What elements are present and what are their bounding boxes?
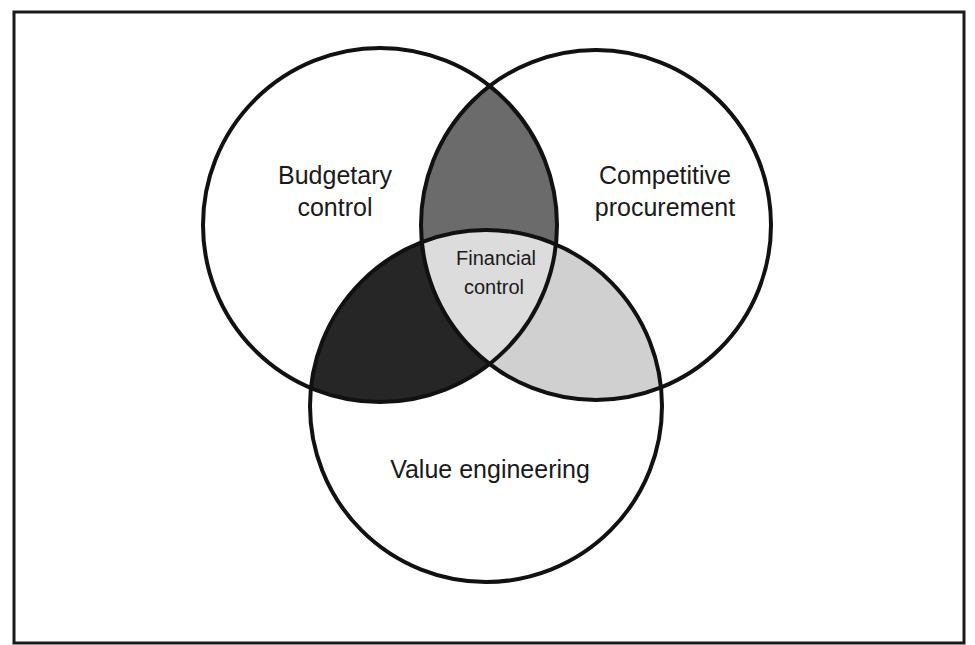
label-value-engineering: Value engineering <box>390 455 590 483</box>
label-budgetary-line1: Budgetary <box>278 161 392 189</box>
label-financial-line2: control <box>464 276 524 298</box>
venn-diagram: Budgetary control Competitive procuremen… <box>0 0 975 645</box>
label-competitive-line1: Competitive <box>599 161 731 189</box>
label-financial-line1: Financial <box>456 247 536 269</box>
label-budgetary-line2: control <box>297 193 372 221</box>
label-competitive-line2: procurement <box>595 193 735 221</box>
